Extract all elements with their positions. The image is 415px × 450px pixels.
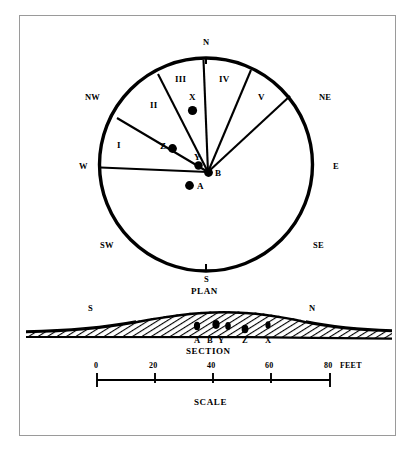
plan-point-x-dot [188, 106, 197, 115]
section-end-label-n: N [309, 303, 315, 313]
section-point-y-dot [225, 322, 231, 330]
sector-label-v: V [258, 92, 265, 102]
plan-point-label-z: Z [160, 141, 166, 151]
plan-ray-iv-v [208, 70, 251, 172]
plan-point-label-y: Y [194, 152, 201, 162]
sector-label-iv: IV [219, 74, 229, 84]
plan-point-b-dot [204, 168, 213, 177]
compass-label-n: N [203, 37, 209, 47]
figure-root: N NE E SE S SW W NW I II III IV V X Z Y … [0, 0, 415, 450]
section-point-label-y: Y [218, 335, 224, 345]
plan-ray-iii-iv [204, 60, 209, 172]
plan-point-z-dot [168, 144, 177, 153]
compass-label-se: SE [313, 240, 324, 250]
plan-ray-v-outer [208, 96, 290, 172]
scale-tick-label-40: 40 [207, 361, 215, 370]
sector-label-iii: III [175, 74, 186, 84]
section-point-label-b: B [207, 335, 213, 345]
section-point-x-dot [265, 321, 270, 329]
plan-point-label-b: B [215, 168, 221, 178]
plan-caption: PLAN [191, 286, 218, 296]
plan-point-a-dot [185, 181, 194, 190]
sector-label-i: I [117, 140, 121, 150]
section-end-label-s: S [88, 303, 93, 313]
scale-tick-label-80: 80 [324, 361, 332, 370]
plan-point-label-x: X [189, 92, 196, 102]
sector-label-ii: II [150, 100, 157, 110]
scale-tick-label-60: 60 [265, 361, 273, 370]
plan-ray-w [101, 168, 209, 173]
section-caption: SECTION [186, 346, 231, 356]
compass-label-sw: SW [100, 240, 114, 250]
section-point-label-a: A [194, 335, 200, 345]
compass-label-s: S [204, 274, 209, 284]
scale-tick-label-0: 0 [94, 361, 98, 370]
plan-circle [100, 58, 313, 271]
section-point-a-dot [194, 322, 200, 330]
compass-label-w: W [79, 161, 88, 171]
scale-caption: SCALE [194, 397, 227, 407]
scale-units-label: FEET [340, 361, 362, 370]
plan-point-y-dot [194, 161, 202, 169]
section-point-z-dot [242, 325, 249, 333]
section-point-label-z: Z [242, 335, 248, 345]
compass-label-nw: NW [85, 92, 100, 102]
section-point-b-dot [212, 320, 219, 329]
compass-label-e: E [333, 161, 339, 171]
diagram-canvas [0, 0, 415, 450]
scale-bar [97, 373, 330, 387]
compass-label-ne: NE [319, 92, 331, 102]
scale-tick-label-20: 20 [149, 361, 157, 370]
section-point-label-x: X [265, 335, 271, 345]
plan-point-label-a: A [197, 181, 204, 191]
